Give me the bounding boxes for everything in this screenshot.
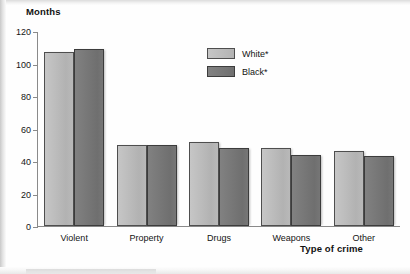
legend-swatch [207, 48, 235, 59]
x-tick-label: Violent [61, 233, 88, 243]
bar-weapons-black [291, 155, 321, 227]
y-tick-label: 120 [16, 27, 31, 37]
y-tick-label: 40 [21, 157, 31, 167]
page-bottom-artifact [26, 269, 156, 274]
y-tick-label: 100 [16, 60, 31, 70]
y-axis-title: Months [26, 6, 61, 17]
chart-legend: White*Black* [207, 48, 269, 77]
page-edge-top [0, 0, 410, 5]
legend-swatch [207, 66, 235, 77]
bar-drugs-white [189, 142, 219, 227]
bar-property-white [117, 145, 147, 226]
x-tick-label: Drugs [207, 233, 231, 243]
y-tick-mark [33, 227, 38, 228]
x-tick-label: Other [353, 233, 376, 243]
x-axis-title: Type of crime [300, 243, 363, 254]
x-axis-line [37, 226, 400, 227]
y-tick-label: 20 [21, 190, 31, 200]
bar-other-white [334, 151, 364, 226]
legend-label: Black* [242, 67, 268, 77]
legend-item: White* [207, 48, 269, 59]
bar-violent-black [74, 49, 104, 226]
x-tick-label: Property [130, 233, 164, 243]
bar-group: Property [110, 31, 182, 226]
y-tick-label: 0 [26, 222, 31, 232]
bar-violent-white [44, 52, 74, 226]
y-tick-label: 80 [21, 92, 31, 102]
bar-chart-figure: Months Type of crime 020406080100120 Vio… [0, 0, 410, 274]
bar-other-black [364, 156, 394, 226]
bar-property-black [147, 145, 177, 226]
legend-label: White* [242, 49, 269, 59]
bar-group: Other [328, 31, 400, 226]
bar-weapons-white [261, 148, 291, 226]
page-edge-left [0, 0, 6, 274]
plot-area: 020406080100120 ViolentPropertyDrugsWeap… [37, 32, 400, 227]
bar-group: Violent [38, 31, 110, 226]
legend-item: Black* [207, 66, 269, 77]
bar-drugs-black [219, 148, 249, 226]
x-tick-label: Weapons [272, 233, 310, 243]
y-tick-label: 60 [21, 125, 31, 135]
